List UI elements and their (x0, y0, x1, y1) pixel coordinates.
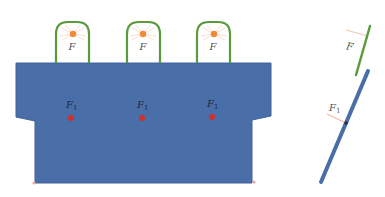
diagram-canvas: F F F F1 F1 F1 F F1 (0, 0, 385, 197)
clip-force-dot (140, 31, 146, 37)
clip-force-label: F (139, 41, 148, 52)
side-board-force-line (327, 114, 346, 123)
board-force-dot (139, 115, 145, 121)
clip-force-dot (211, 31, 217, 37)
side-clip-force-line (346, 30, 368, 36)
side-contact-point (344, 121, 348, 125)
clip-force-label: F (209, 41, 218, 52)
board-force-dot (68, 115, 74, 121)
side-clip-force-label: F (345, 40, 356, 52)
board-force-dot (209, 114, 215, 120)
corner-mark-left (32, 181, 35, 184)
side-board (321, 71, 368, 182)
clip-force-dot (70, 31, 76, 37)
board-shape (16, 63, 271, 183)
front-view: F F F F1 F1 F1 (16, 22, 271, 185)
side-view: F F1 (321, 26, 370, 182)
clip-force-label: F (68, 41, 77, 52)
corner-mark-right (252, 180, 255, 183)
side-board-force-label: F1 (328, 102, 340, 115)
